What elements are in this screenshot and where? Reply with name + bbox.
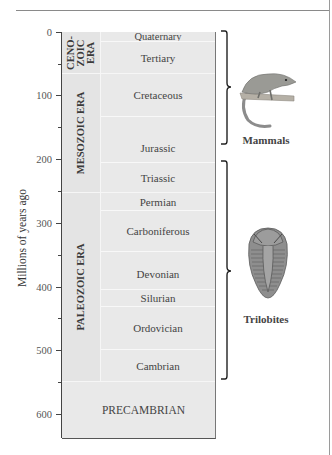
tick-label: 600 [14,409,52,420]
tick-label: 0 [14,27,52,38]
era-cenozoic-label: CENO- ZOIC ERA [66,36,96,70]
period-triassic: Triassic [101,163,215,192]
period-cretaceous: Cretaceous [101,74,215,116]
tick-0 [56,32,61,33]
tick-500 [56,350,61,351]
era-mesozoic: MESOZOIC ERA [62,74,100,192]
trilobites-label: Trilobites [243,313,288,325]
tick-200 [56,159,61,160]
period-ordovician: Ordovician [101,307,215,349]
tick-label: 300 [14,218,52,229]
period-silurian: Silurian [101,290,215,306]
period-carboniferous: Carboniferous [101,211,215,251]
trilobites-range-brace [220,160,234,382]
geologic-timescale-table: CENO- ZOIC ERA MESOZOIC ERA PALEOZOIC ER… [62,32,216,439]
tick-400 [56,287,61,288]
period-devonian: Devonian [101,252,215,289]
era-precambrian: PRECAMBRIAN [62,382,215,438]
period-cambrian: Cambrian [101,350,215,381]
tick-300 [56,223,61,224]
trilobite-icon [246,226,290,300]
tick-minor [58,191,61,192]
tick-minor [58,255,61,256]
tick-100 [56,95,61,96]
top-rule [16,10,329,11]
tick-label: 200 [14,154,52,165]
era-cenozoic-line3: ERA [86,36,96,70]
right-rule [329,0,330,455]
tick-600 [56,414,61,415]
tick-minor [58,318,61,319]
tick-label: 100 [14,90,52,101]
era-mesozoic-label: MESOZOIC ERA [76,92,86,175]
period-jurassic: Jurassic [101,117,215,162]
tick-minor [58,64,61,65]
mammal-icon [238,68,298,130]
period-permian: Permian [101,193,215,210]
tick-label: 400 [14,282,52,293]
mammals-range-brace [220,30,234,146]
tick-minor [58,127,61,128]
tick-minor [58,382,61,383]
tick-label: 500 [14,345,52,356]
y-axis-label: Millions of years ago [16,189,28,287]
period-quaternary: Quaternary [101,32,215,41]
era-cenozoic: CENO- ZOIC ERA [62,32,100,73]
era-paleozoic: PALEOZOIC ERA [62,193,100,381]
mammals-label: Mammals [242,134,289,146]
era-paleozoic-label: PALEOZOIC ERA [76,243,86,330]
period-tertiary: Tertiary [101,42,215,73]
